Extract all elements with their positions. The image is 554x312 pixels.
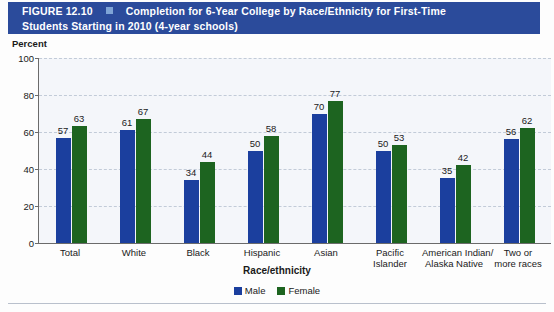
bar-female: 44 [200,162,215,243]
bar-value-label: 56 [506,126,517,137]
bar-male: 70 [312,114,327,244]
bar-female: 67 [136,119,151,243]
x-axis-category-line: Islander [358,258,422,269]
x-axis-category-line: more races [486,258,550,269]
plot-area: 0204060801005763616734445058707750533542… [38,58,551,244]
bar-value-label: 58 [266,123,277,134]
figure-number: FIGURE 12.10 [22,5,93,17]
x-axis-category-line: Hispanic [230,247,294,258]
chart-legend: MaleFemale [0,285,554,296]
legend-label: Male [245,285,266,296]
legend-item-male: Male [234,285,266,296]
bar-male: 57 [56,138,71,243]
y-axis-tick-mark [35,132,39,133]
legend-swatch-icon [234,287,242,295]
x-axis-category-line: Black [166,247,230,258]
y-axis-tick-mark [35,95,39,96]
y-axis-tick-label: 20 [23,201,34,212]
x-axis-category-label: Total [38,247,102,258]
y-axis-tick-mark [35,206,39,207]
x-axis-category-line: Total [38,247,102,258]
bar-group: 5053 [376,58,407,243]
bar-group: 7077 [312,58,343,243]
bar-male: 34 [184,180,199,243]
bar-group: 3444 [184,58,215,243]
x-axis-category-label: American Indian/Alaska Native [422,247,486,269]
y-axis-tick-label: 0 [29,238,34,249]
bar-female: 58 [264,136,279,243]
bar-value-label: 63 [74,113,85,124]
bar-value-label: 57 [58,125,69,136]
legend-swatch-icon [277,287,285,295]
gridline [39,169,551,170]
bar-value-label: 70 [314,101,325,112]
bar-male: 50 [376,151,391,244]
bar-group: 5763 [56,58,87,243]
bar-female: 62 [520,128,535,243]
y-axis-tick-mark [35,243,39,244]
bar-female: 77 [328,101,343,243]
bar-value-label: 62 [522,115,533,126]
y-axis-tick-label: 60 [23,127,34,138]
gridline [39,95,551,96]
x-axis-category-line: White [102,247,166,258]
x-axis-category-line: Asian [294,247,358,258]
bar-value-label: 53 [394,132,405,143]
y-axis-tick-label: 100 [18,53,34,64]
bar-value-label: 77 [330,88,341,99]
x-axis-category-label: Hispanic [230,247,294,258]
square-bullet-icon [106,7,113,14]
bar-value-label: 50 [378,138,389,149]
figure-header-line-1: FIGURE 12.10 Completion for 6-Year Colle… [8,4,540,19]
x-axis-category-line: American Indian/ [422,247,486,258]
x-axis-category-label: Asian [294,247,358,258]
bar-value-label: 42 [458,152,469,163]
bar-value-label: 67 [138,106,149,117]
bar-value-label: 44 [202,149,213,160]
bar-male: 61 [120,130,135,243]
bar-female: 63 [72,126,87,243]
figure-title-line-1: Completion for 6-Year College by Race/Et… [126,5,446,17]
gridline [39,132,551,133]
figure-title-line-2: Students Starting in 2010 (4-year school… [8,19,540,34]
gridline [39,206,551,207]
bar-value-label: 61 [122,117,133,128]
x-axis-category-line: Two or [486,247,550,258]
y-axis-tick-label: 40 [23,164,34,175]
bar-value-label: 34 [186,167,197,178]
bottom-divider [8,303,546,304]
bar-value-label: 35 [442,165,453,176]
legend-item-female: Female [277,285,320,296]
bar-group: 5662 [504,58,535,243]
y-axis-tick-label: 80 [23,90,34,101]
x-axis-category-label: Black [166,247,230,258]
bar-female: 53 [392,145,407,243]
bar-group: 5058 [248,58,279,243]
gridline [39,58,551,59]
figure-container: FIGURE 12.10 Completion for 6-Year Colle… [0,0,554,312]
bar-male: 35 [440,178,455,243]
y-axis-label: Percent [12,38,47,49]
y-axis-tick-mark [35,169,39,170]
bar-female: 42 [456,165,471,243]
x-axis-category-line: Pacific [358,247,422,258]
bar-male: 56 [504,139,519,243]
bar-value-label: 50 [250,138,261,149]
x-axis-category-label: PacificIslander [358,247,422,269]
x-axis-category-line: Alaska Native [422,258,486,269]
y-axis-tick-mark [35,58,39,59]
bar-group: 3542 [440,58,471,243]
x-axis-category-label: Two ormore races [486,247,550,269]
legend-label: Female [288,285,320,296]
x-axis-category-label: White [102,247,166,258]
bar-group: 6167 [120,58,151,243]
figure-header: FIGURE 12.10 Completion for 6-Year Colle… [8,2,540,34]
bar-male: 50 [248,151,263,244]
